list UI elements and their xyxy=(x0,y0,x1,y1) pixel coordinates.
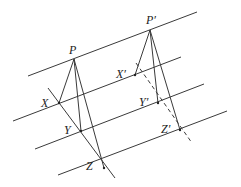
parallel-line-1 xyxy=(28,12,197,76)
label-P: P xyxy=(68,43,77,57)
point-Y-prime xyxy=(157,102,159,104)
label-X-prime: X′ xyxy=(115,67,126,81)
parallel-line-3 xyxy=(35,84,204,149)
transversal-XYZ xyxy=(48,88,115,178)
ray-P-prime-Z-prime xyxy=(150,30,180,130)
ray-P-Z xyxy=(74,59,104,168)
label-X: X xyxy=(40,96,49,110)
projection-diagram: P X Y Z P′ X′ Y′ Z′ xyxy=(0,0,241,187)
label-Z-prime: Z′ xyxy=(161,122,171,136)
ray-P-X xyxy=(59,59,74,103)
point-Z xyxy=(103,167,105,169)
point-Y xyxy=(80,130,82,132)
label-Z: Z xyxy=(86,159,93,173)
point-X xyxy=(58,102,60,104)
label-Y-prime: Y′ xyxy=(139,95,149,109)
ray-P-prime-X-prime xyxy=(135,30,150,75)
point-Z-prime xyxy=(179,129,181,131)
parallel-line-4 xyxy=(58,111,227,175)
point-X-prime xyxy=(134,74,136,76)
label-P-prime: P′ xyxy=(145,13,156,27)
parallel-line-2 xyxy=(13,57,181,121)
